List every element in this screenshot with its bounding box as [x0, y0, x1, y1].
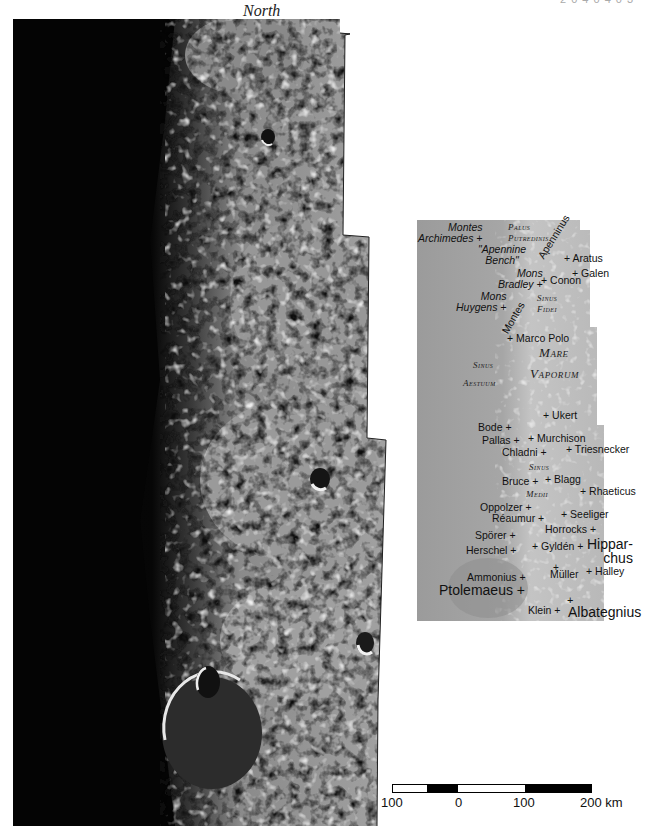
scale-tick-100-left: 100: [381, 795, 403, 810]
scale-tick-0: 0: [455, 795, 462, 810]
label-chladni: Chladni +: [502, 447, 547, 458]
label-sinus-aestuum-1: Sinus: [473, 360, 493, 371]
label-rhaeticus: + Rhaeticus: [580, 486, 636, 497]
label-herschel: Herschel +: [466, 545, 516, 556]
scale-segment-2: [427, 785, 459, 792]
label-reaumur: Réaumur +: [492, 513, 544, 524]
label-ukert: + Ukert: [543, 410, 577, 421]
label-vaporum: Vaporum: [530, 368, 579, 379]
label-seeliger: + Seeliger: [561, 509, 609, 520]
label-conon: + Conon: [541, 275, 581, 286]
muller-marker: +: [553, 562, 559, 573]
label-aratus: + Aratus: [564, 253, 603, 264]
label-triesnecker: + Triesnecker: [566, 444, 629, 455]
label-bruce: Bruce +: [502, 476, 538, 487]
label-sinus-medii-2: Medii: [526, 489, 548, 500]
label-marco-polo: + Marco Polo: [507, 333, 569, 344]
label-montes-archimedes: Montes Archimedes +: [418, 222, 483, 244]
label-mare: Mare: [539, 347, 569, 358]
label-apennine-bench: "Apennine Bench": [478, 244, 526, 266]
scale-segment-3: [458, 785, 524, 792]
scale-segment-4: [525, 785, 591, 792]
label-horrocks: Horrocks +: [545, 524, 596, 535]
label-ptolemaeus: Ptolemaeus +: [439, 583, 525, 597]
label-albategnius: Albategnius: [568, 605, 641, 619]
label-bode: Bode +: [478, 422, 512, 433]
scale-segment-1: [393, 785, 427, 792]
labelled-inset-map: Montes Archimedes + Palus Putredinis "Ap…: [0, 0, 659, 839]
label-mons-bradley: Mons Bradley +: [498, 268, 543, 290]
label-sinus-aestuum-2: Aestuum: [463, 378, 496, 389]
label-sinus-medii-1: Sinus: [529, 462, 549, 473]
albategnius-marker: +: [567, 595, 573, 606]
label-mons-huygens: Mons Huygens +: [456, 291, 507, 313]
scale-tick-200-km: 200 km: [580, 795, 623, 810]
label-sinus-fidei: Sinus Fidei: [537, 293, 557, 315]
label-halley: + Halley: [586, 566, 624, 577]
label-hipparchus: Hippar- chus: [587, 537, 633, 565]
scale-tick-100: 100: [513, 795, 535, 810]
label-pallas: Pallas +: [482, 435, 520, 446]
label-gylden: + Gyldén +: [532, 541, 583, 552]
label-blagg: + Blagg: [545, 474, 581, 485]
label-klein: Klein +: [528, 605, 560, 616]
label-sporer: Spörer +: [475, 530, 516, 541]
scale-bar: [392, 784, 592, 793]
